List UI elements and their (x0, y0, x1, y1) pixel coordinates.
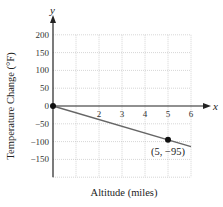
data-point (50, 103, 56, 109)
x-tick-label: 5 (166, 109, 171, 119)
x-tick-label: 4 (143, 109, 148, 119)
y-tick-label: 50 (40, 83, 50, 93)
x-tick-labels: 23456 (97, 109, 194, 119)
x-axis-label: Altitude (miles) (91, 187, 158, 199)
y-tick-label: 0 (45, 101, 50, 111)
axes (50, 15, 211, 177)
y-tick-label: −150 (30, 154, 49, 164)
y-axis-name: y (49, 4, 55, 16)
data-point (165, 137, 171, 143)
x-axis-name: x (212, 100, 218, 112)
y-tick-label: −50 (35, 119, 50, 129)
x-tick-label: 2 (97, 109, 102, 119)
y-tick-label: −100 (30, 137, 49, 147)
y-tick-labels: 200150100500−50−100−150 (30, 30, 49, 165)
data-point-label: (5, −95) (151, 146, 185, 158)
y-axis-label: Temperature Change (°F) (5, 52, 17, 160)
y-axis-arrow-icon (50, 15, 56, 23)
y-tick-label: 100 (36, 65, 50, 75)
y-tick-label: 200 (36, 30, 50, 40)
x-tick-label: 6 (189, 109, 194, 119)
x-tick-label: 3 (120, 109, 125, 119)
line-chart: 200150100500−50−100−150 23456 (5, −95) x… (0, 0, 223, 207)
x-axis-arrow-icon (203, 103, 211, 109)
y-tick-label: 150 (36, 48, 50, 58)
